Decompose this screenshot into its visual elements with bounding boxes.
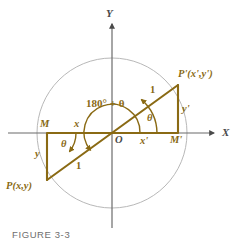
segment-x-label: x xyxy=(74,119,79,130)
point-m-prime-label: M' xyxy=(170,135,182,146)
radius-lower-label: 1 xyxy=(76,161,81,172)
radius-upper-label: 1 xyxy=(150,85,155,96)
segment-x-prime-label: x' xyxy=(140,136,148,147)
point-p-prime-label: P'(x',y') xyxy=(178,69,213,80)
theta-upper-label: θ xyxy=(147,113,152,124)
x-axis-label: X xyxy=(222,127,229,138)
figure-container: Y X O P(x,y) P'(x',y') M M' x y x' y' 1 … xyxy=(0,0,239,250)
figure-caption: FIGURE 3-3 xyxy=(12,229,70,240)
y-axis-label: Y xyxy=(106,8,113,19)
theta-lower-label: θ xyxy=(61,139,66,150)
reflex-angle-label: 180° + θ xyxy=(86,98,124,109)
geometry-diagram xyxy=(0,0,239,250)
segment-y-prime-label: y' xyxy=(182,104,190,115)
theta-lower-arc xyxy=(70,133,77,152)
segment-y-label: y xyxy=(35,149,40,160)
origin-label: O xyxy=(115,135,123,146)
point-p-label: P(x,y) xyxy=(6,181,32,192)
point-m-label: M xyxy=(40,119,49,130)
